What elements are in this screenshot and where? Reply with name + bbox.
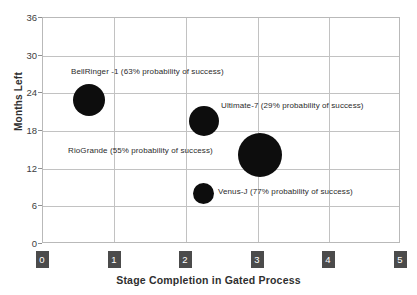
point-label-riogrande: RioGrande (55% probability of success)	[68, 146, 213, 155]
gridline-horizontal-6	[43, 206, 399, 207]
x-tick-label-2: 2	[179, 251, 192, 268]
y-tick-label-18: 18	[10, 125, 37, 136]
point-label-venus-j: Venus-J (77% probability of success)	[218, 187, 353, 196]
gridline-vertical-3	[258, 18, 259, 242]
y-tick-label-6: 6	[10, 200, 37, 211]
gridline-vertical-1	[114, 18, 115, 242]
y-tick-mark	[38, 243, 42, 244]
point-label-ultimate-7: Ultimate-7 (29% probability of success)	[221, 101, 364, 110]
gridline-horizontal-12	[43, 169, 399, 170]
point-label-bellringer: BellRinger -1 (63% probability of succes…	[71, 67, 224, 76]
x-tick-label-1: 1	[108, 251, 121, 268]
plot-area: BellRinger -1 (63% probability of succes…	[42, 17, 400, 243]
gridline-horizontal-30	[43, 56, 399, 57]
bubble-ultimate-7	[189, 106, 219, 136]
x-tick-label-4: 4	[322, 251, 335, 268]
y-tick-label-36: 36	[10, 12, 37, 23]
gridline-vertical-4	[329, 18, 330, 242]
gridline-vertical-2	[186, 18, 187, 242]
y-tick-label-0: 0	[10, 238, 37, 249]
x-tick-label-3: 3	[251, 251, 264, 268]
bubble-bellringer	[73, 84, 105, 116]
x-tick-label-0: 0	[36, 251, 49, 268]
x-axis-title: Stage Completion in Gated Process	[0, 274, 417, 286]
gridline-horizontal-18	[43, 131, 399, 132]
y-tick-label-24: 24	[10, 87, 37, 98]
bubble-riogrande	[238, 133, 282, 177]
y-tick-label-30: 30	[10, 50, 37, 61]
x-tick-label-5: 5	[394, 251, 407, 268]
bubble-chart: Months Left 36 30 24 18 12 6 0 BellRinge…	[0, 0, 417, 295]
bubble-venus-j	[193, 183, 214, 204]
y-tick-label-12: 12	[10, 163, 37, 174]
